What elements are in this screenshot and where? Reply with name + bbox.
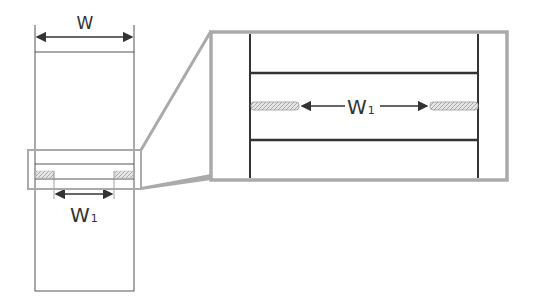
- small-hatch-right: [115, 171, 133, 178]
- detail-view: W1: [211, 32, 507, 180]
- connector-top: [141, 31, 211, 150]
- hatch-bar-left: [251, 102, 299, 110]
- diagram-canvas: W W1 W1: [0, 0, 535, 302]
- zoom-region-frame: [28, 150, 141, 189]
- hatch-bar-right: [430, 102, 478, 110]
- zoom-connector: [141, 31, 211, 190]
- connector-bottom: [141, 174, 211, 190]
- main-strip: W W1: [28, 13, 141, 291]
- width-label: W: [77, 13, 94, 33]
- w1-label: W1: [70, 203, 98, 227]
- small-hatch-left: [36, 171, 54, 178]
